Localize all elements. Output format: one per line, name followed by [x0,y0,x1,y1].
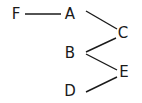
node-b: B [65,44,75,62]
node-f: F [12,5,21,23]
tree-diagram: F A C B E D [0,0,142,103]
node-d: D [64,82,76,100]
node-e: E [119,63,128,81]
node-c: C [118,24,128,42]
edge-c-b [86,38,116,52]
edge-e-d [86,77,117,92]
edge-a-c [86,11,117,29]
node-a: A [65,5,76,23]
edge-b-e [86,54,117,70]
